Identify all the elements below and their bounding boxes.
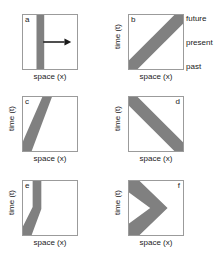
panel-f-letter: f — [178, 181, 180, 190]
panel-e-letter: e — [25, 181, 29, 190]
panel-c-worldline-graphic — [23, 97, 77, 151]
panel-f-xlabel: space (x) — [128, 238, 184, 248]
panel-a-xlabel: space (x) — [22, 72, 78, 82]
panel-e-xlabel: space (x) — [22, 238, 78, 248]
time-tick-present: present — [186, 38, 213, 47]
panel-e-ylabel: time (t) — [7, 180, 16, 226]
worldline-figure: a space (x) b time (t) space (x) future … — [0, 0, 224, 261]
panel-a-motion-arrow-icon — [23, 15, 77, 69]
panel-b-plot-area: b — [128, 14, 184, 70]
panel-b-xlabel: space (x) — [128, 72, 184, 82]
panel-d-plot-area: d — [128, 96, 184, 152]
panel-c-letter: c — [25, 97, 29, 106]
panel-f-worldline-graphic — [129, 181, 183, 235]
panel-f-plot-area: f — [128, 180, 184, 236]
panel-d-letter: d — [176, 97, 180, 106]
time-tick-past: past — [186, 62, 201, 71]
time-tick-future: future — [186, 14, 206, 23]
panel-d-xlabel: space (x) — [128, 154, 184, 164]
panel-b-letter: b — [131, 15, 135, 24]
panel-c-ylabel: time (t) — [7, 96, 16, 142]
panel-d-ylabel: time (t) — [113, 96, 122, 142]
panel-e-plot-area: e — [22, 180, 78, 236]
panel-b-ylabel: time (t) — [113, 14, 122, 60]
panel-c-plot-area: c — [22, 96, 78, 152]
panel-c-xlabel: space (x) — [22, 154, 78, 164]
panel-a-plot-area: a — [22, 14, 78, 70]
panel-a-letter: a — [25, 15, 29, 24]
panel-b-worldline-graphic — [129, 15, 183, 69]
panel-e-worldline-graphic — [23, 181, 77, 235]
panel-f-ylabel: time (t) — [113, 180, 122, 226]
